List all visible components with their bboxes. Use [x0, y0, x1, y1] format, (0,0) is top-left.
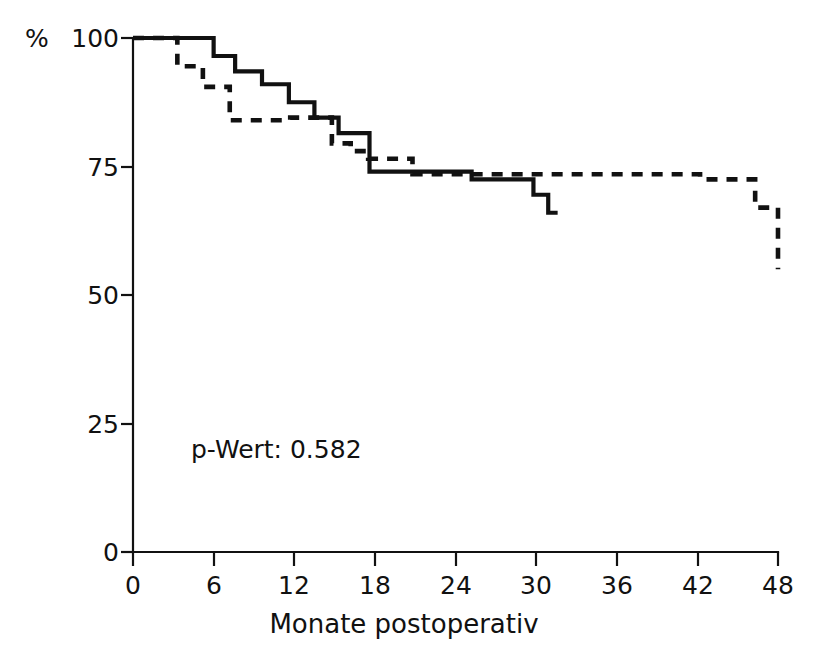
x-tick-label-12: 12	[278, 571, 310, 600]
x-tick-label-42: 42	[682, 571, 714, 600]
survival-curve-solid	[133, 38, 558, 213]
y-tick-label-50: 50	[87, 281, 119, 310]
x-tick-label-24: 24	[440, 571, 472, 600]
x-axis-title: Monate postoperativ	[269, 609, 538, 639]
x-tick-label-6: 6	[206, 571, 222, 600]
x-tick-label-30: 30	[520, 571, 552, 600]
x-tick-label-48: 48	[762, 571, 794, 600]
survival-chart-figure: % 100 75 50 25 0 0 6 12 18 24 30 36	[0, 0, 817, 654]
chart-svg: % 100 75 50 25 0 0 6 12 18 24 30 36	[0, 0, 817, 654]
y-tick-label-0: 0	[103, 538, 119, 567]
x-tick-label-18: 18	[359, 571, 391, 600]
y-tick-label-75: 75	[87, 153, 119, 182]
x-tick-label-36: 36	[601, 571, 633, 600]
p-value-annotation: p-Wert: 0.582	[191, 435, 362, 464]
x-tick-label-0: 0	[125, 571, 141, 600]
survival-curve-dashed	[133, 38, 778, 269]
y-tick-label-100: 100	[71, 24, 119, 53]
y-axis-unit-label: %	[25, 24, 49, 53]
y-tick-label-25: 25	[87, 410, 119, 439]
